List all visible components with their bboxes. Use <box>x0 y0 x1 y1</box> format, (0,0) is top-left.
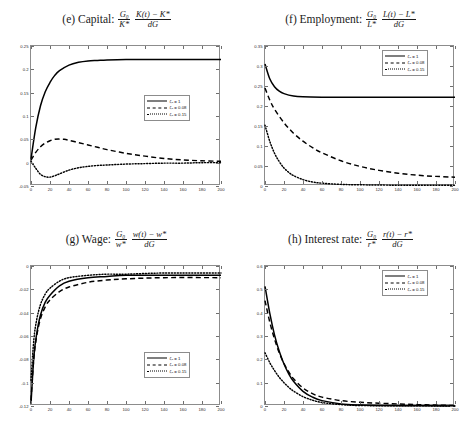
panel-e-xtick-mark <box>202 46 203 49</box>
panel-e-ytick-label: 0.2 <box>23 67 31 72</box>
panel-g-xtick-mark <box>69 401 70 404</box>
panel-f-ytick-label: 0.3 <box>257 64 265 69</box>
panel-e-ytick-mark <box>31 163 34 164</box>
panel-f-ytick-label: 0.2 <box>257 104 265 109</box>
panel-g-ytick-mark <box>31 289 34 290</box>
panel-h-plot-area: 00.10.20.30.40.50.6020406080100120140160… <box>264 265 454 405</box>
panel-g-name: Wage: <box>82 233 111 245</box>
panel-g-xtick-label: 20 <box>48 404 53 412</box>
panel-g-series-dotted <box>31 273 221 380</box>
legend-row-dashed: ζ₀ = 0.08 <box>147 362 186 369</box>
panel-f-title: (f) Employment: G₀ L* L(t) − L* dG <box>234 10 468 29</box>
panel-g-ytick-mark <box>216 313 219 314</box>
panel-h-xtick-mark <box>360 266 361 269</box>
panel-e-xtick-mark <box>50 46 51 49</box>
legend-row-dotted: ζ₀ = 0.15 <box>147 368 186 375</box>
panel-h-ytick-mark <box>450 313 453 314</box>
panel-h-xtick-mark <box>417 401 418 404</box>
panel-h-ytick-mark <box>450 266 453 267</box>
panel-e-xtick-mark <box>31 181 32 184</box>
panel-g-xtick-mark <box>164 266 165 269</box>
panel-h-ytick-mark <box>450 383 453 384</box>
panel-f-series-dashed <box>265 88 455 177</box>
panel-h-ytick-mark <box>265 359 268 360</box>
panel-f-ytick-mark <box>265 106 268 107</box>
panel-f-ytick-mark <box>265 86 268 87</box>
panel-g-xtick-mark <box>202 266 203 269</box>
panel-h-xtick-mark <box>284 401 285 404</box>
panel-f-ytick-mark <box>265 166 268 167</box>
panel-e-xtick-mark <box>88 46 89 49</box>
panel-e-ytick-mark <box>216 69 219 70</box>
panel-g-ytick-mark <box>31 313 34 314</box>
panel-e-xtick-mark <box>145 46 146 49</box>
legend-label: ζ₀ = 0.15 <box>170 369 187 374</box>
panel-e-xtick-mark <box>31 46 32 49</box>
panel-f-ytick-label: 0.35 <box>254 44 265 49</box>
panel-g-xtick-mark <box>50 401 51 404</box>
panel-f-xtick-mark <box>398 181 399 184</box>
panel-g-xtick-label: 100 <box>123 404 130 412</box>
panel-f-xtick-mark <box>303 46 304 49</box>
panel-f-xtick-label: 160 <box>414 184 421 192</box>
panel-g-curves <box>31 266 221 406</box>
panel-e-xtick-label: 120 <box>142 184 149 192</box>
panel-e-frac-2: K(t) − K* dG <box>135 10 171 29</box>
legend-row-dashed: ζ₀ = 0.08 <box>147 105 186 112</box>
panel-e-name: Capital: <box>78 13 114 25</box>
panel-e-ytick-label: 0.05 <box>20 137 31 142</box>
panel-h-xtick-mark <box>341 266 342 269</box>
panel-h-xtick-label: 20 <box>282 404 287 412</box>
panel-g-ytick-mark <box>31 359 34 360</box>
panel-g-frac-2: w(t) − w* dG <box>132 230 168 249</box>
panel-e-ytick-label: 0.1 <box>23 114 31 119</box>
panel-g-xtick-mark <box>183 266 184 269</box>
panel-g-ytick-mark <box>216 383 219 384</box>
panel-h-xtick-mark <box>322 266 323 269</box>
panel-g-xtick-mark <box>164 401 165 404</box>
panel-h-xtick-label: 100 <box>357 404 364 412</box>
legend-row-dashed: ζ₀ = 0.08 <box>385 60 424 67</box>
panel-e-xtick-mark <box>50 181 51 184</box>
panel-f-xtick-label: 140 <box>395 184 402 192</box>
panel-h-xtick-label: 80 <box>339 404 344 412</box>
panel-e-xtick-label: 160 <box>180 184 187 192</box>
panel-h-ytick-mark <box>265 289 268 290</box>
panel-e-frac-1: G₀ K* <box>118 10 130 29</box>
panel-e-xtick-mark <box>126 181 127 184</box>
panel-g-legend: ζ₀ = 1ζ₀ = 0.08ζ₀ = 0.15 <box>144 352 190 378</box>
panel-g-xtick-label: 180 <box>199 404 206 412</box>
panel-g-title: (g) Wage: G₀ w* w(t) − w* dG <box>0 230 234 249</box>
panel-h-frac-1: G₀ r* <box>366 230 377 249</box>
panel-f-xtick-label: 40 <box>301 184 306 192</box>
panel-h-xtick-mark <box>398 401 399 404</box>
panel-f-ytick-mark <box>450 66 453 67</box>
panel-h-interest-rate: (h) Interest rate: G₀ r* r(t) − r* dG 00… <box>234 220 468 441</box>
panel-e-xtick-mark <box>164 181 165 184</box>
panel-e-xtick-label: 0 <box>30 184 32 192</box>
panel-e-frac-1-den: K* <box>118 20 130 29</box>
panel-f-ytick-mark <box>265 146 268 147</box>
panel-h-tag: (h) <box>288 233 301 245</box>
panel-e-xtick-mark <box>221 181 222 184</box>
panel-g-xtick-mark <box>221 401 222 404</box>
panel-g-xtick-mark <box>145 401 146 404</box>
legend-line-sample-dashed <box>385 60 405 66</box>
legend-line-sample-solid <box>147 355 167 361</box>
legend-label: ζ₀ = 0.08 <box>408 60 425 65</box>
panel-f-legend: ζ₀ = 1ζ₀ = 0.08ζ₀ = 0.15 <box>382 50 428 76</box>
panel-e-xtick-label: 40 <box>67 184 72 192</box>
panel-e-xtick-mark <box>126 46 127 49</box>
panel-f-plot-area: 00.050.10.150.20.250.30.3502040608010012… <box>264 45 454 185</box>
panel-g-xtick-label: 40 <box>67 404 72 412</box>
panel-e-ytick-mark <box>216 46 219 47</box>
panel-g-xtick-label: 200 <box>218 404 225 412</box>
panel-h-xtick-mark <box>322 401 323 404</box>
panel-h-xtick-mark <box>360 401 361 404</box>
legend-line-sample-dotted <box>385 286 405 292</box>
panel-h-series-solid <box>265 286 455 406</box>
panel-f-ytick-mark <box>450 46 453 47</box>
legend-label: ζ₀ = 1 <box>408 54 419 59</box>
panel-g-ytick-mark <box>216 336 219 337</box>
panel-h-xtick-mark <box>341 401 342 404</box>
